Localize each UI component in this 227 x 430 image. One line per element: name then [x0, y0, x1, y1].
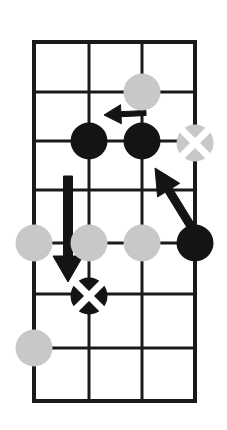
stone-black[interactable] — [177, 225, 214, 262]
stone-gray[interactable] — [16, 330, 53, 367]
board-canvas — [0, 0, 227, 430]
stone-gray[interactable] — [124, 74, 161, 111]
stone-gray[interactable] — [124, 225, 161, 262]
go-board-diagram: Go board tactical diagram — [0, 0, 227, 430]
stone-black[interactable] — [124, 123, 161, 160]
stone-gray[interactable] — [16, 225, 53, 262]
stone-disc — [124, 225, 161, 262]
stone-disc — [16, 330, 53, 367]
stone-disc — [71, 123, 108, 160]
stone-black-marked[interactable] — [71, 278, 108, 315]
stone-disc — [124, 123, 161, 160]
stone-gray-marked[interactable] — [177, 125, 214, 162]
stone-disc — [124, 74, 161, 111]
stone-gray[interactable] — [71, 225, 108, 262]
stone-disc — [177, 225, 214, 262]
stone-black[interactable] — [71, 123, 108, 160]
stone-disc — [71, 225, 108, 262]
stone-disc — [16, 225, 53, 262]
